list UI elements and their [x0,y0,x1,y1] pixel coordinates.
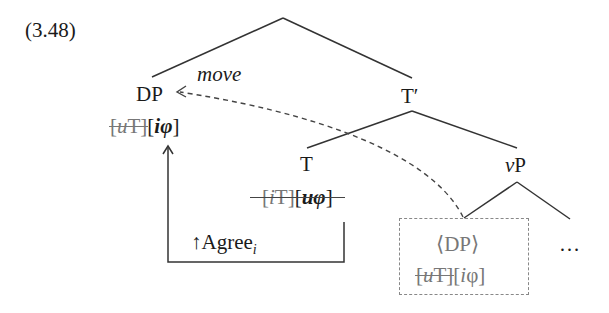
node-tbar: T′ [401,86,418,107]
ellipsis: … [559,234,580,255]
node-dp: DP [136,84,163,105]
branch-vp-left [464,182,517,218]
move-arrowhead-icon [177,86,186,97]
t-features: [iT][uφ] [262,187,333,208]
trace-feature-iphi: [iφ] [453,263,485,287]
dp-features: [uT][iφ] [110,116,179,137]
branch-vp-right [517,182,570,219]
agree-label: ↑Agreei [191,232,257,257]
feature-uT-checked: [uT] [110,114,147,138]
branch-root-right [283,18,412,78]
node-t: T [300,154,313,175]
feature-iphi: [iφ] [147,114,179,138]
node-vp: vP [505,155,526,176]
node-dp-trace: ⟨DP⟩ [436,234,479,255]
trace-features: [uT][iφ] [416,265,485,286]
move-label: move [197,64,241,85]
t-features-struck: [iT][uφ] [262,185,333,209]
branch-tbar-right [412,111,517,148]
branch-tbar-left [307,111,412,148]
example-number: (3.48) [25,20,76,41]
trace-feature-uT-checked: [uT] [416,263,453,287]
up-arrow-icon: ↑ [191,230,202,254]
